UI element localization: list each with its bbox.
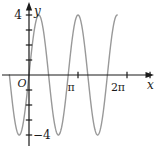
y-min-label: −4 bbox=[33, 128, 51, 142]
two-pi-tick-label: 2π bbox=[111, 81, 125, 94]
origin-label: O bbox=[17, 77, 26, 90]
sine-graph-figure: y 4 O π 2π x −4 bbox=[0, 0, 160, 148]
y-axis-arrowhead bbox=[26, 2, 32, 11]
y-max-label: 4 bbox=[14, 8, 22, 22]
sine-graph: y 4 O π 2π x −4 bbox=[0, 0, 160, 148]
pi-tick-label: π bbox=[67, 81, 74, 94]
y-axis-label: y bbox=[33, 4, 41, 18]
x-axis-label: x bbox=[147, 78, 154, 92]
